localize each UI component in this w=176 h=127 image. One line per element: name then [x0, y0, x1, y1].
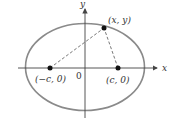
- ellipse-diagram: y x 0 (x, y) (−c, 0) (c, 0): [0, 0, 176, 127]
- right-focus-label: (c, 0): [106, 75, 130, 85]
- point-label: (x, y): [108, 15, 131, 25]
- y-axis-label: y: [79, 0, 86, 9]
- diagram-canvas: y x 0 (x, y) (−c, 0) (c, 0): [0, 0, 176, 127]
- origin-label: 0: [76, 71, 82, 81]
- ellipse-point: [102, 26, 107, 31]
- dashed-line-left-focus: [50, 28, 104, 68]
- left-focus-label: (−c, 0): [35, 74, 67, 84]
- right-focus-point: [116, 66, 121, 71]
- x-axis-label: x: [162, 63, 167, 73]
- left-focus-point: [48, 66, 53, 71]
- dashed-line-right-focus: [104, 28, 118, 68]
